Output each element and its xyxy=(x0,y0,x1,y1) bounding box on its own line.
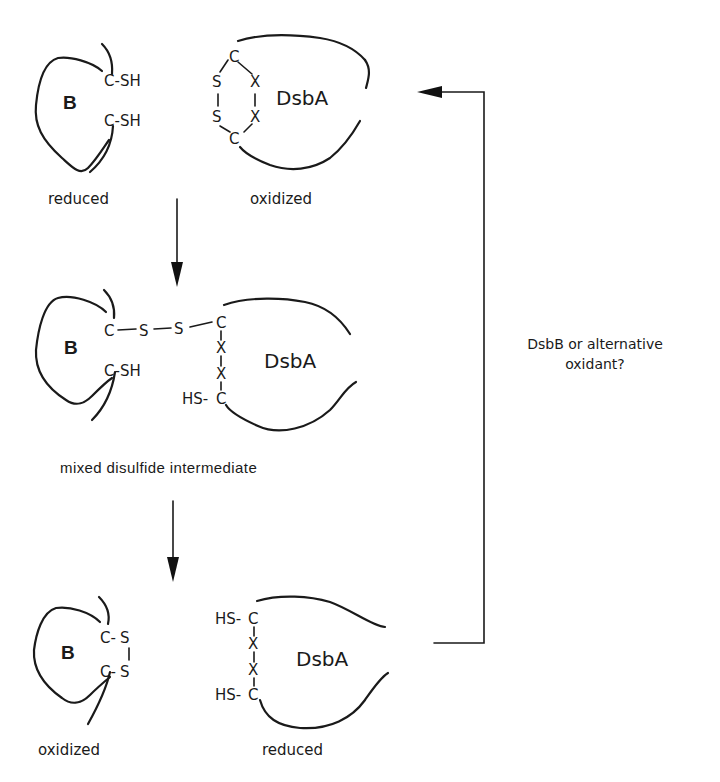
arrow-down-icon xyxy=(171,262,183,287)
dsba-outline-bottom xyxy=(260,673,388,728)
disulfide-cys-lower: C- xyxy=(100,663,116,681)
active-site-cys-bottom: C xyxy=(229,130,239,148)
stage1-protein-b-reduced: B C-SH C-SH reduced xyxy=(36,44,141,208)
disulfide-sulfur-lower: S xyxy=(120,663,130,681)
chain-cys-top: C xyxy=(216,314,226,332)
arrow-regeneration: DsbB or alternative oxidant? xyxy=(417,86,663,643)
thiol-group-upper: C-SH xyxy=(104,72,141,90)
arrow-step2-down xyxy=(167,501,179,582)
protein-b-label: B xyxy=(63,92,77,113)
stage1-dsba-oxidized: C S S X X C DsbA oxidized xyxy=(212,35,369,208)
dsba-outline-right xyxy=(365,60,369,88)
dsba-label: DsbA xyxy=(276,86,329,110)
arrow-down-icon xyxy=(167,557,179,582)
protein-b-flap-top xyxy=(102,44,112,74)
bond xyxy=(220,60,228,72)
protein-b-label: B xyxy=(64,337,78,358)
active-site-x-upper: X xyxy=(250,73,260,91)
dsba-outline-top xyxy=(238,35,365,60)
free-thiol-group: C-SH xyxy=(104,362,141,380)
active-site-x-lower: X xyxy=(250,108,260,126)
bridge-cys: C xyxy=(104,322,114,340)
dsba-label: DsbA xyxy=(264,349,317,373)
stage3-b-state-label: oxidized xyxy=(38,741,100,759)
mixed-disulfide-label: mixed disulfide intermediate xyxy=(60,459,257,476)
dsba-outline-top xyxy=(257,597,385,627)
dsba-label: DsbA xyxy=(296,647,349,671)
protein-b-flap-top xyxy=(104,290,114,318)
free-thiol-hs: HS- xyxy=(182,390,208,408)
regeneration-path xyxy=(430,92,484,643)
dsba-outline-top xyxy=(224,299,350,334)
active-site-cys-top: C xyxy=(229,48,239,66)
chain-x-2: X xyxy=(216,365,226,383)
chain-cys-top: C xyxy=(248,610,258,628)
active-site-s-lower: S xyxy=(212,108,222,126)
bridge-sulfur-1: S xyxy=(139,322,149,340)
free-thiol-hs-lower: HS- xyxy=(215,686,241,704)
chain-cys-bottom: C xyxy=(216,390,226,408)
stage2-dsba: C X X C HS- DsbA xyxy=(182,299,356,431)
dsba-oxidation-cycle-diagram: B C-SH C-SH reduced C S S X X C DsbA oxi… xyxy=(0,0,720,782)
stage3-dsba-state-label: reduced xyxy=(262,741,323,759)
protein-b-flap-top xyxy=(99,597,109,624)
bond xyxy=(220,126,230,132)
oxidant-label-line2: oxidant? xyxy=(565,356,625,372)
dsba-outline-lower-right xyxy=(240,121,360,169)
stage1-dsba-state-label: oxidized xyxy=(250,190,312,208)
protein-b-label: B xyxy=(61,642,75,663)
bond xyxy=(190,322,212,327)
bridge-sulfur-2: S xyxy=(174,320,184,338)
protein-b-outline xyxy=(36,58,109,171)
thiol-group-lower: C-SH xyxy=(104,112,141,130)
bond xyxy=(154,328,171,329)
chain-cys-bottom: C xyxy=(248,686,258,704)
bond xyxy=(244,124,252,132)
oxidant-label-line1: DsbB or alternative xyxy=(527,336,663,352)
disulfide-cys-upper: C- xyxy=(100,629,116,647)
arrow-left-icon xyxy=(417,86,442,98)
free-thiol-hs-upper: HS- xyxy=(215,610,241,628)
arrow-step1-down xyxy=(171,199,183,287)
chain-x-1: X xyxy=(248,635,258,653)
dsba-outline-bottom xyxy=(226,382,356,430)
chain-x-2: X xyxy=(248,661,258,679)
stage3-protein-b-oxidized: B C- S C- S oxidized xyxy=(34,597,130,759)
active-site-s-upper: S xyxy=(212,73,222,91)
bond xyxy=(118,329,136,330)
stage3-dsba-reduced: C X X C HS- HS- DsbA reduced xyxy=(215,597,388,759)
bond xyxy=(238,62,252,74)
chain-x-1: X xyxy=(216,339,226,357)
disulfide-sulfur-upper: S xyxy=(120,629,130,647)
stage1-b-state-label: reduced xyxy=(48,190,109,208)
